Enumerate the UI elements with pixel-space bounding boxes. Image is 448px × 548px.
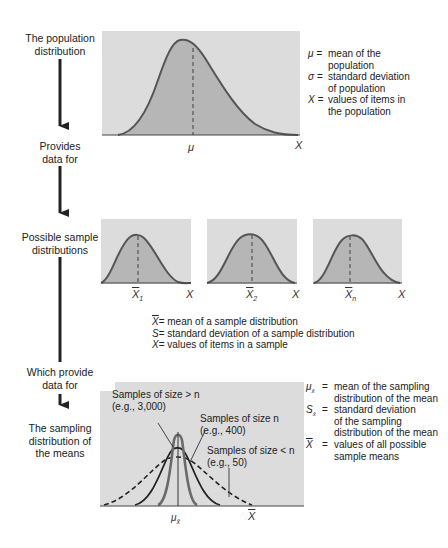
legend-text: distribution of the mean bbox=[334, 427, 438, 439]
step-which-provide-data-for: Which provide data for bbox=[5, 366, 115, 391]
sample-chart-2 bbox=[207, 219, 297, 284]
legend-equals: = bbox=[322, 404, 334, 439]
legend-row-xbar: X = values of all possible sample means bbox=[306, 439, 438, 462]
step-text: distribution of bbox=[5, 435, 115, 448]
step-text: Provides bbox=[5, 140, 115, 153]
legend-row-mu-xbar: μx̄ = mean of the sampling distribution … bbox=[306, 381, 438, 404]
mean-subscript: x̄ bbox=[176, 518, 180, 525]
legend-symbol: Sx̄ bbox=[306, 404, 322, 439]
sampling-mean-label: μx̄ bbox=[171, 512, 180, 525]
annotation-text: Samples of size > n bbox=[112, 389, 200, 401]
annotation-text: (e.g., 3,000) bbox=[112, 401, 200, 413]
sample-2-mean-label: X2 bbox=[246, 288, 257, 302]
legend-symbol: X bbox=[152, 316, 159, 328]
legend-text: = standard deviation of a sample distrib… bbox=[159, 328, 355, 340]
legend-row-s-xbar: Sx̄ = standard deviation of the sampling… bbox=[306, 404, 438, 439]
legend-text: mean of the bbox=[328, 48, 381, 60]
legend-row-x: X = values of items in a sample bbox=[152, 339, 355, 351]
mean-subscript: n bbox=[352, 295, 356, 302]
step-text: distribution bbox=[5, 45, 115, 58]
legend-row-xbar: X = mean of a sample distribution bbox=[152, 316, 355, 328]
annotation-text: (e.g., 400) bbox=[200, 425, 279, 437]
legend-text: of the sampling bbox=[334, 416, 438, 428]
step-text: The population bbox=[5, 32, 115, 45]
legend-text: population bbox=[328, 60, 381, 72]
legend-text: values of items in bbox=[328, 94, 405, 106]
step-text: the means bbox=[5, 447, 115, 460]
step-text: Possible sample bbox=[5, 231, 115, 244]
legend-text: of population bbox=[328, 83, 410, 95]
legend-row-x: X = values of items in the population bbox=[308, 94, 410, 117]
annotation-text: Samples of size < n bbox=[207, 445, 295, 457]
legend-symbol: S bbox=[152, 328, 159, 340]
legend-text: = values of items in a sample bbox=[159, 339, 288, 351]
legend-row-mu: μ = mean of the population bbox=[308, 48, 410, 71]
legend-text: mean of the sampling bbox=[334, 381, 438, 393]
step-possible-sample-distributions: Possible sample distributions bbox=[5, 231, 115, 256]
annotation-text: Samples of size n bbox=[200, 413, 279, 425]
legend-row-s: S = standard deviation of a sample distr… bbox=[152, 328, 355, 340]
annotation-size-less-n: Samples of size < n (e.g., 50) bbox=[207, 445, 295, 468]
legend-symbol: μx̄ bbox=[306, 381, 322, 404]
legend-text: distribution of the mean bbox=[334, 393, 438, 405]
legend-text: standard deviation bbox=[334, 404, 438, 416]
sample-n-axis-label: X bbox=[398, 288, 405, 300]
annotation-size-n: Samples of size n (e.g., 400) bbox=[200, 413, 279, 436]
legend-row-sigma: σ = standard deviation of population bbox=[308, 71, 410, 94]
sample-chart-3 bbox=[313, 219, 402, 284]
step-sampling-distribution-of-means: The sampling distribution of the means bbox=[5, 422, 115, 460]
sample-legend: X = mean of a sample distribution S = st… bbox=[152, 316, 355, 351]
sampling-legend: μx̄ = mean of the sampling distribution … bbox=[306, 381, 438, 462]
legend-symbol: X = bbox=[308, 94, 328, 117]
legend-text: standard deviation bbox=[328, 71, 410, 83]
population-chart bbox=[102, 31, 300, 135]
step-text: The sampling bbox=[5, 422, 115, 435]
legend-equals: = bbox=[322, 439, 334, 462]
symbol-main: S bbox=[306, 404, 313, 415]
legend-symbol: X bbox=[306, 439, 322, 462]
legend-symbol: μ = bbox=[308, 48, 328, 71]
legend-text: sample means bbox=[334, 451, 426, 463]
legend-symbol: X bbox=[152, 339, 159, 351]
sample-1-axis-label: X bbox=[186, 288, 193, 300]
step-population-distribution: The population distribution bbox=[5, 32, 115, 57]
sample-2-axis-label: X bbox=[292, 288, 299, 300]
symbol-sub: x̄ bbox=[311, 388, 314, 394]
legend-text: the population bbox=[328, 106, 405, 118]
annotation-size-greater-n: Samples of size > n (e.g., 3,000) bbox=[112, 389, 200, 412]
step-text: Which provide bbox=[5, 366, 115, 379]
legend-symbol: σ = bbox=[308, 71, 328, 94]
population-legend: μ = mean of the population σ = standard … bbox=[308, 48, 410, 118]
mean-subscript: 1 bbox=[139, 295, 143, 302]
step-text: data for bbox=[5, 379, 115, 392]
step-text: distributions bbox=[5, 244, 115, 257]
symbol-sub: x̄ bbox=[313, 411, 316, 417]
annotation-text: (e.g., 50) bbox=[207, 457, 295, 469]
legend-equals: = bbox=[322, 381, 334, 404]
sample-n-mean-label: Xn bbox=[345, 288, 356, 302]
population-axis-label: X bbox=[295, 139, 302, 151]
mean-subscript: 2 bbox=[253, 295, 257, 302]
legend-text: = mean of a sample distribution bbox=[159, 316, 298, 328]
step-provides-data-for: Provides data for bbox=[5, 140, 115, 165]
sampling-axis-label: X bbox=[248, 510, 255, 522]
step-text: data for bbox=[5, 153, 115, 166]
population-mean-label: μ bbox=[188, 141, 194, 153]
sample-1-mean-label: X1 bbox=[132, 288, 143, 302]
legend-text: values of all possible bbox=[334, 439, 426, 451]
